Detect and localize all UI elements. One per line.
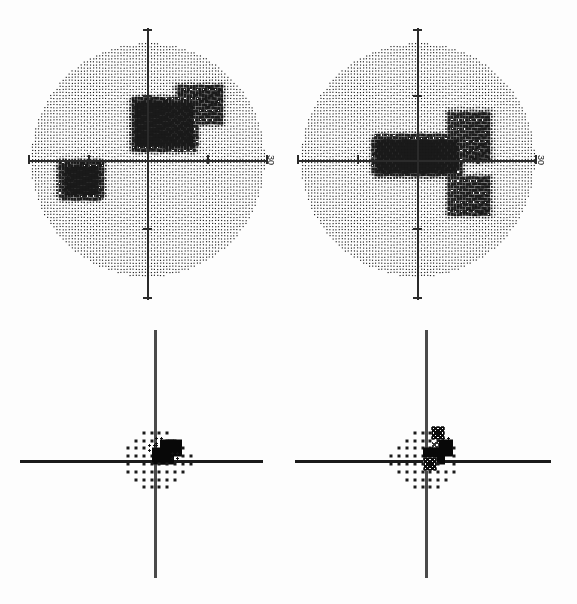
field-point-level-0 xyxy=(135,478,138,481)
field-point-level-0 xyxy=(150,462,153,465)
field-point-level-0 xyxy=(142,431,145,434)
field-point-level-0 xyxy=(181,447,184,450)
field-point-level-0 xyxy=(437,486,440,489)
field-point-level-0 xyxy=(429,478,432,481)
x-tick-minus15 xyxy=(357,155,359,164)
field-point-level-0 xyxy=(166,462,169,465)
field-point-level-0 xyxy=(166,470,169,473)
probability-plot-right xyxy=(290,330,577,604)
field-point-level-0 xyxy=(421,470,424,473)
field-point-level-0 xyxy=(452,470,455,473)
field-point-level-0 xyxy=(189,455,192,458)
field-point-level-0 xyxy=(166,486,169,489)
field-point-level-0 xyxy=(158,478,161,481)
field-point-level-0 xyxy=(142,486,145,489)
field-point-level-0 xyxy=(150,470,153,473)
field-point-level-0 xyxy=(150,431,153,434)
field-point-level-0 xyxy=(158,470,161,473)
y-tick-plus15 xyxy=(413,95,422,97)
field-point-level-0 xyxy=(421,478,424,481)
field-point-level-0 xyxy=(390,462,393,465)
field-point-level-0 xyxy=(174,470,177,473)
field-point-level-0 xyxy=(445,478,448,481)
field-point-level-0 xyxy=(452,462,455,465)
field-point-level-0 xyxy=(406,462,409,465)
field-point-level-0 xyxy=(437,470,440,473)
grayscale-plot-right: 30 xyxy=(290,0,577,320)
field-point-level-0 xyxy=(142,455,145,458)
field-point-level-0 xyxy=(413,431,416,434)
field-point-level-0 xyxy=(421,486,424,489)
field-point-level-0 xyxy=(406,455,409,458)
y-tick-plus30 xyxy=(143,29,152,31)
field-point-level-0 xyxy=(413,455,416,458)
field-point-level-0 xyxy=(429,486,432,489)
field-point-level-0 xyxy=(406,478,409,481)
field-point-level-0 xyxy=(437,462,440,465)
field-point-level-1 xyxy=(171,452,180,461)
probability-plot-left xyxy=(0,330,290,604)
field-point-level-0 xyxy=(189,462,192,465)
field-point-level-0 xyxy=(406,447,409,450)
field-point-level-0 xyxy=(158,486,161,489)
field-point-level-0 xyxy=(135,439,138,442)
field-point-level-0 xyxy=(413,478,416,481)
field-point-level-0 xyxy=(142,462,145,465)
field-point-level-0 xyxy=(127,470,130,473)
x-tick-minus15 xyxy=(88,155,90,164)
x-tick-plus15 xyxy=(477,155,479,164)
field-point-level-0 xyxy=(158,431,161,434)
field-point-level-0 xyxy=(135,447,138,450)
y-tick-minus15 xyxy=(143,228,152,230)
y-tick-minus30 xyxy=(143,297,152,299)
field-point-level-0 xyxy=(127,447,130,450)
grayscale-plot-left: 30 xyxy=(0,0,290,320)
field-point-level-0 xyxy=(452,447,455,450)
field-point-level-0 xyxy=(166,431,169,434)
field-point-level-0 xyxy=(413,447,416,450)
field-point-level-0 xyxy=(142,439,145,442)
y-tick-plus15 xyxy=(143,95,152,97)
x-axis-label-right: 30 xyxy=(536,155,546,165)
printout-sheet: 30 30 xyxy=(0,0,577,604)
field-point-level-0 xyxy=(135,455,138,458)
field-point-level-0 xyxy=(452,455,455,458)
field-point-level-0 xyxy=(150,439,153,442)
field-point-level-0 xyxy=(398,455,401,458)
field-point-level-0 xyxy=(413,439,416,442)
field-point-level-0 xyxy=(398,470,401,473)
field-point-level-0 xyxy=(142,447,145,450)
field-point-level-0 xyxy=(127,455,130,458)
field-point-level-0 xyxy=(406,439,409,442)
y-tick-plus30 xyxy=(413,29,422,31)
field-point-level-0 xyxy=(413,462,416,465)
field-point-level-0 xyxy=(413,470,416,473)
field-point-level-0 xyxy=(390,455,393,458)
field-point-level-0 xyxy=(142,470,145,473)
field-point-level-0 xyxy=(150,478,153,481)
field-point-level-0 xyxy=(127,462,130,465)
field-point-level-0 xyxy=(174,462,177,465)
field-point-level-0 xyxy=(135,470,138,473)
field-point-level-0 xyxy=(181,455,184,458)
y-axis-left xyxy=(147,28,149,300)
x-axis-label-left: 30 xyxy=(266,155,276,165)
y-tick-minus15 xyxy=(413,228,422,230)
field-point-level-0 xyxy=(142,478,145,481)
x-tick-plus15 xyxy=(207,155,209,164)
x-tick-minus30 xyxy=(297,155,299,164)
field-point-level-0 xyxy=(174,478,177,481)
field-point-level-0 xyxy=(166,478,169,481)
x-tick-minus30 xyxy=(28,155,30,164)
field-point-level-0 xyxy=(150,486,153,489)
field-point-level-0 xyxy=(421,431,424,434)
field-point-level-0 xyxy=(437,478,440,481)
field-point-level-0 xyxy=(406,470,409,473)
field-point-level-0 xyxy=(413,486,416,489)
field-point-level-0 xyxy=(181,470,184,473)
field-point-level-0 xyxy=(398,462,401,465)
field-point-level-0 xyxy=(398,447,401,450)
field-point-level-3 xyxy=(424,457,437,470)
field-point-level-0 xyxy=(158,462,161,465)
field-point-level-0 xyxy=(181,462,184,465)
